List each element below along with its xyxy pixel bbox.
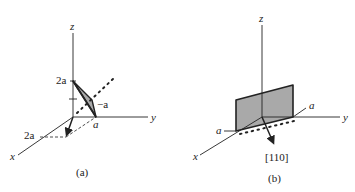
y-axis-label-a: y xyxy=(150,111,156,123)
y-axis-label-b: y xyxy=(342,111,348,123)
z-axis-label-a: z xyxy=(69,20,75,32)
caption-b: (b) xyxy=(268,172,281,185)
neg-a-label: −a xyxy=(97,98,108,110)
z-axis-label-b: z xyxy=(258,12,264,24)
dashed-line-y-a xyxy=(66,117,96,137)
y-tick-b xyxy=(293,108,306,117)
x-axis-label-b: x xyxy=(192,150,198,162)
figure-canvas: z y x 2a 2a a −a (a) z xyxy=(0,0,355,192)
direction-label-110: [110] xyxy=(265,151,288,163)
panel-a: z y x 2a 2a a −a (a) xyxy=(9,20,156,179)
x-intercept-label-b: a xyxy=(216,124,222,136)
x-axis-label-a: x xyxy=(9,150,15,162)
y-intercept-label-b: a xyxy=(309,99,315,111)
x-intercept-label-a: 2a xyxy=(24,129,35,141)
x-axis-b xyxy=(200,117,262,155)
panel-b: z y x a a [110] (b) xyxy=(192,12,348,185)
crystal-planes-diagram: z y x 2a 2a a −a (a) z xyxy=(0,0,355,192)
caption-a: (a) xyxy=(76,166,89,179)
z-intercept-label-a: 2a xyxy=(56,74,67,86)
y-intercept-label-a: a xyxy=(93,118,99,130)
